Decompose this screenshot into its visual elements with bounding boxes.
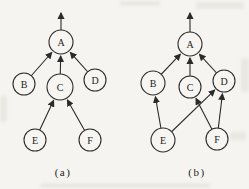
node-label-b-B: B — [150, 78, 157, 89]
node-label-b-E: E — [160, 135, 166, 146]
dag-figure: ABCDEF(a)ABCDEF(b) — [0, 0, 249, 189]
node-label-b-F: F — [214, 134, 220, 145]
node-label-a-C: C — [57, 82, 64, 93]
node-label-b-D: D — [220, 76, 227, 87]
node-label-a-B: B — [21, 79, 28, 90]
node-label-a-D: D — [91, 75, 98, 86]
node-label-a-F: F — [87, 135, 93, 146]
node-label-a-E: E — [32, 135, 38, 146]
figure-caption-a: (a) — [55, 166, 72, 179]
node-label-b-C: C — [187, 82, 194, 93]
figure-caption-b: (b) — [188, 166, 205, 179]
scanned-page: ABCDEF(a)ABCDEF(b) — [0, 0, 249, 189]
diagram-b: ABCDEF(b) — [141, 13, 235, 179]
diagram-a: ABCDEF(a) — [13, 13, 106, 179]
node-label-b-A: A — [186, 39, 194, 50]
node-label-a-A: A — [57, 37, 65, 48]
